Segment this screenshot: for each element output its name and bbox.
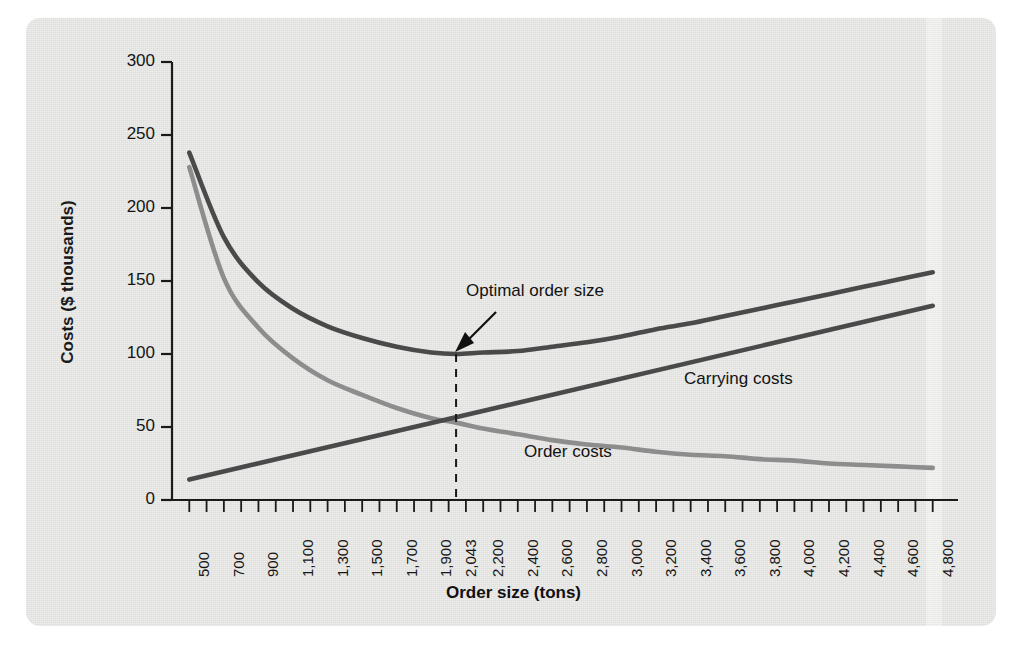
tick-marks-group	[161, 62, 933, 512]
annotation-group	[455, 312, 496, 500]
plot-area	[0, 0, 1027, 664]
series-group	[189, 153, 932, 480]
axes-group	[172, 62, 958, 500]
series-line-carrying-costs	[189, 306, 932, 480]
annotation-arrow-head	[455, 332, 474, 352]
figure-frame: Costs ($ thousands) 050100150200250300 5…	[0, 0, 1027, 664]
series-line-order-costs	[189, 167, 932, 468]
series-line-total-costs	[189, 153, 932, 354]
